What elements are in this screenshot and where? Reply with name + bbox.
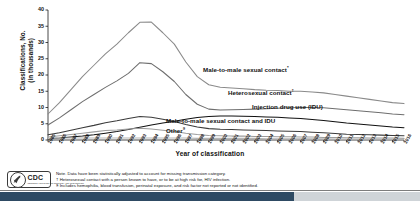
x-axis-title: Year of classification [0, 150, 420, 157]
cdc-hiv-classification-figure: Classifications, No. (in thousands) 0510… [0, 0, 420, 208]
cdc-seal-icon [10, 172, 26, 188]
series-label-male-to-male-and-idu: Male-to-male sexual contact and IDU [166, 117, 275, 124]
figure-footer: CDC CENTERS FOR DISEASE CONTROL AND PREV… [0, 168, 420, 208]
footer-bar [0, 192, 420, 201]
footer-divider [0, 190, 420, 191]
series-label-male-to-male-sexual-contact: Male-to-male sexual contact* [203, 66, 289, 73]
footer-bar-accent [294, 192, 420, 201]
cdc-logo: CDC CENTERS FOR DISEASE CONTROL AND PREV… [7, 171, 51, 188]
series-label-heterosexual-contact: Heterosexual contact† [228, 89, 294, 96]
cdc-emblem-icon [12, 174, 23, 185]
figure-notes: Note. Data have been statistically adjus… [56, 171, 386, 189]
section-note-line: § Includes hemophilia, blood transfusion… [56, 183, 386, 189]
chart-plot-area: Classifications, No. (in thousands) 0510… [0, 0, 420, 168]
series-label-injection-drug-use: Injection drug use (IDU) [252, 103, 323, 110]
series-label-other: Other§ [166, 127, 185, 134]
